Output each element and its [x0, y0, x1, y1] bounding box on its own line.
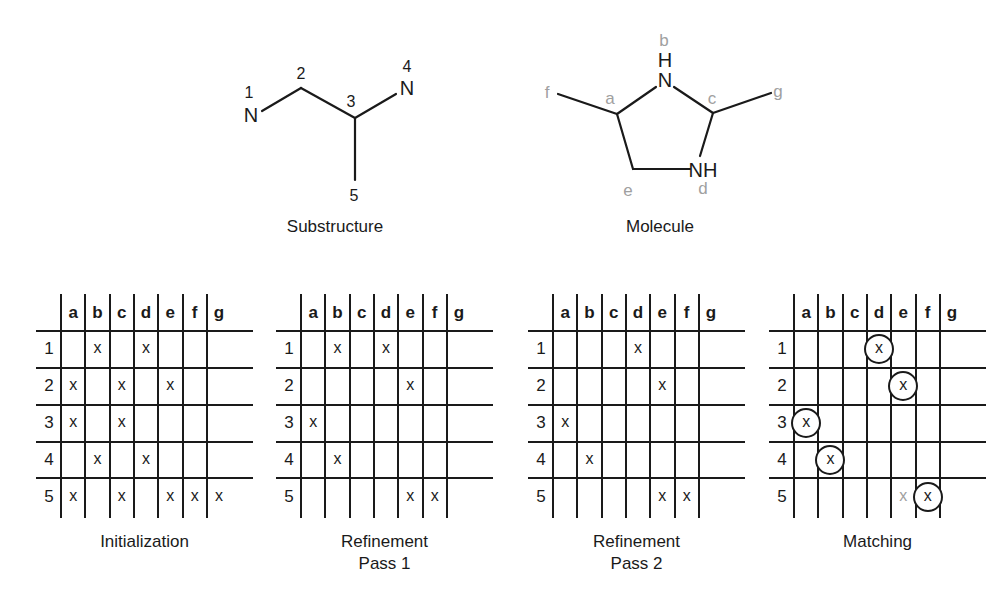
column-header-a: a — [308, 303, 317, 323]
candidate-mark-5e: x — [166, 487, 174, 505]
column-header-e: e — [658, 303, 667, 323]
grid-row-divider — [769, 367, 986, 369]
atom-label-d: d — [698, 179, 707, 198]
row-header-4: 4 — [284, 450, 293, 470]
candidate-mark-1d: x — [875, 339, 883, 357]
atom-index-4: 4 — [403, 58, 412, 75]
atom-n-b: N — [658, 69, 672, 91]
candidate-mark-3c: x — [118, 413, 126, 431]
grid-column-divider — [817, 294, 819, 518]
row-header-5: 5 — [44, 487, 53, 507]
candidate-mark-5f: x — [431, 487, 439, 505]
grid-column-divider — [300, 294, 302, 518]
row-header-5: 5 — [536, 487, 545, 507]
candidate-mark-3a: x — [561, 413, 569, 431]
row-header-3: 3 — [44, 413, 53, 433]
row-header-2: 2 — [44, 376, 53, 396]
grid-row-divider — [528, 367, 745, 369]
atom-label-f: f — [545, 83, 550, 102]
grid-column-divider — [552, 294, 554, 518]
candidate-mark-2e: x — [406, 376, 414, 394]
grid-row-divider — [528, 441, 745, 443]
candidate-mark-1b: x — [93, 339, 101, 357]
atom-index-3: 3 — [347, 93, 356, 110]
substructure-caption: Substructure — [287, 216, 383, 238]
candidate-mark-3a: x — [69, 413, 77, 431]
row-header-3: 3 — [536, 413, 545, 433]
row-header-5: 5 — [284, 487, 293, 507]
candidate-mark-5c: x — [118, 487, 126, 505]
grid-column-divider — [324, 294, 326, 518]
grid-column-divider — [60, 294, 62, 518]
column-header-f: f — [684, 303, 690, 323]
column-header-b: b — [92, 303, 102, 323]
grid-column-divider — [890, 294, 892, 518]
candidate-mark-5e: x — [899, 487, 907, 505]
grid-row-divider — [528, 477, 745, 479]
grid-row-divider — [528, 404, 745, 406]
candidate-mark-2e: x — [166, 376, 174, 394]
molecule-caption: Molecule — [626, 216, 694, 238]
candidate-mark-5a: x — [69, 487, 77, 505]
grid-row-divider — [276, 441, 493, 443]
candidate-mark-4b: x — [333, 450, 341, 468]
column-header-f: f — [925, 303, 931, 323]
column-header-a: a — [801, 303, 810, 323]
column-header-g: g — [454, 303, 464, 323]
atom-n4: N — [400, 77, 414, 99]
row-header-2: 2 — [284, 376, 293, 396]
caption-line: Matching — [843, 531, 912, 553]
row-header-5: 5 — [777, 487, 786, 507]
row-header-4: 4 — [536, 450, 545, 470]
atom-h-b: H — [658, 49, 672, 71]
row-header-1: 1 — [777, 339, 786, 359]
grid-row-divider — [276, 404, 493, 406]
caption-line: Refinement — [341, 531, 428, 553]
caption-line: Pass 2 — [593, 553, 680, 575]
atom-label-a: a — [605, 89, 615, 108]
candidate-mark-1b: x — [333, 339, 341, 357]
grid-row-divider — [769, 404, 986, 406]
grid-column-divider — [373, 294, 375, 518]
caption-matching: Matching — [843, 531, 912, 553]
column-header-d: d — [381, 303, 391, 323]
caption-initialization: Initialization — [100, 531, 189, 553]
grid-column-divider — [446, 294, 448, 518]
grid-column-divider — [649, 294, 651, 518]
candidate-mark-5f: x — [924, 487, 932, 505]
row-header-3: 3 — [777, 413, 786, 433]
column-header-a: a — [560, 303, 569, 323]
caption-line: Initialization — [100, 531, 189, 553]
atom-label-e: e — [623, 181, 632, 200]
candidate-mark-5f: x — [683, 487, 691, 505]
column-header-b: b — [825, 303, 835, 323]
candidate-mark-3a: x — [309, 413, 317, 431]
grid-column-divider — [182, 294, 184, 518]
candidate-mark-4b: x — [826, 450, 834, 468]
candidate-mark-1d: x — [634, 339, 642, 357]
column-header-g: g — [947, 303, 957, 323]
grid-row-divider — [276, 367, 493, 369]
grid-row-divider — [36, 367, 253, 369]
candidate-mark-1d: x — [382, 339, 390, 357]
atom-index-5: 5 — [350, 187, 359, 204]
column-header-f: f — [432, 303, 438, 323]
grid-row-divider — [276, 477, 493, 479]
candidate-mark-2c: x — [118, 376, 126, 394]
candidate-mark-5e: x — [406, 487, 414, 505]
candidate-mark-2e: x — [658, 376, 666, 394]
candidate-mark-4b: x — [585, 450, 593, 468]
column-header-g: g — [706, 303, 716, 323]
grid-column-divider — [109, 294, 111, 518]
column-header-d: d — [874, 303, 884, 323]
grid-row-divider — [36, 330, 253, 332]
row-header-4: 4 — [777, 450, 786, 470]
column-header-e: e — [899, 303, 908, 323]
candidate-mark-2a: x — [69, 376, 77, 394]
grid-column-divider — [157, 294, 159, 518]
grid-column-divider — [866, 294, 868, 518]
grid-column-divider — [397, 294, 399, 518]
atom-label-b: b — [659, 31, 668, 50]
grid-row-divider — [36, 404, 253, 406]
candidate-mark-4b: x — [93, 450, 101, 468]
